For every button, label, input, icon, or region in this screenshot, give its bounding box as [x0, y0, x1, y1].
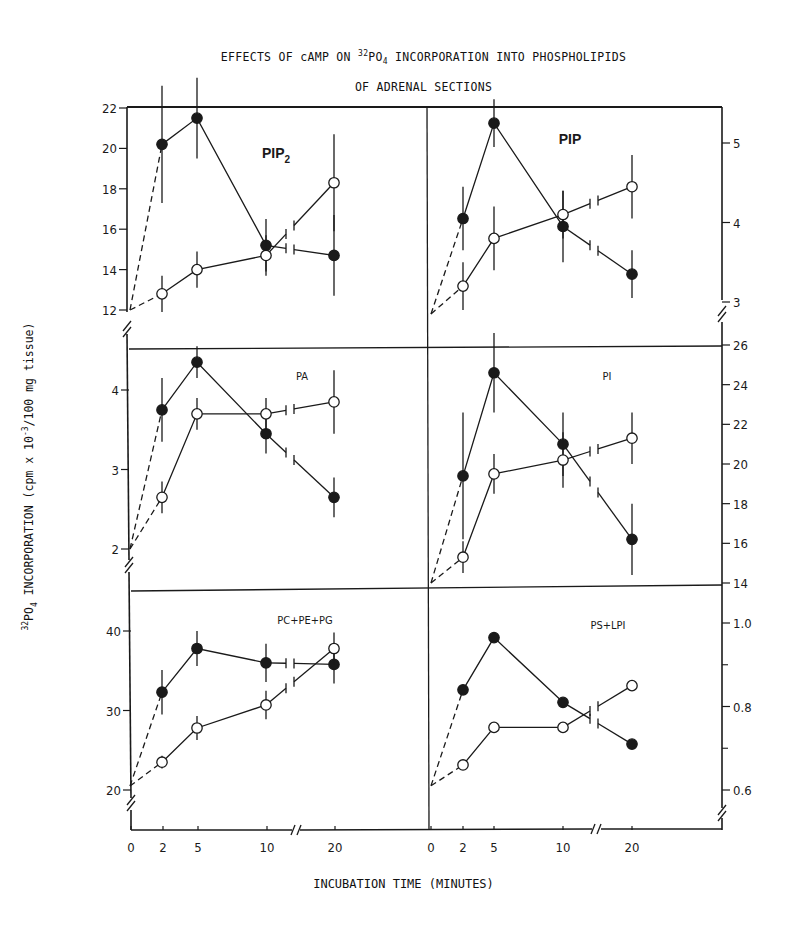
data-point-filled	[627, 269, 637, 279]
data-point-open	[489, 233, 499, 243]
svg-text:PS+LPI: PS+LPI	[591, 619, 626, 632]
svg-text:14: 14	[733, 576, 748, 591]
svg-text:3: 3	[112, 463, 119, 478]
data-point-open	[329, 397, 339, 407]
svg-text:16: 16	[733, 536, 748, 551]
svg-text:PIP: PIP	[559, 131, 582, 147]
svg-text:18: 18	[102, 182, 117, 197]
data-point-filled	[458, 685, 468, 695]
svg-text:4: 4	[733, 216, 740, 231]
svg-text:PC+PE+PG: PC+PE+PG	[277, 614, 332, 627]
data-point-filled	[489, 632, 499, 642]
data-point-open	[558, 455, 568, 465]
data-point-open	[458, 760, 468, 770]
svg-text:24: 24	[733, 378, 748, 393]
data-point-filled	[558, 697, 568, 707]
data-point-filled	[329, 250, 339, 260]
data-point-open	[627, 433, 637, 443]
svg-text:10: 10	[260, 840, 275, 855]
svg-text:PI: PI	[603, 370, 612, 383]
data-point-filled	[192, 643, 202, 653]
data-point-open	[192, 264, 202, 274]
data-point-filled	[157, 687, 167, 697]
svg-text:26: 26	[733, 338, 748, 353]
data-point-filled	[157, 405, 167, 415]
data-point-filled	[489, 368, 499, 378]
data-point-open	[157, 757, 167, 767]
panel-pi: 14161820222426PI	[431, 333, 748, 591]
svg-text:0: 0	[427, 840, 434, 855]
svg-text:1.0: 1.0	[733, 616, 752, 631]
chart-panels: 02510200251020121416182022PIP2345PIP234P…	[0, 0, 807, 935]
data-point-filled	[627, 739, 637, 749]
data-point-filled	[261, 658, 271, 668]
panel-pc-pe-pg: 203040PC+PE+PG	[106, 614, 339, 798]
data-point-filled	[261, 429, 271, 439]
svg-text:16: 16	[102, 222, 117, 237]
svg-text:20: 20	[328, 840, 343, 855]
panel-pa: 234PA	[112, 346, 340, 557]
svg-text:30: 30	[106, 704, 121, 719]
data-point-open	[329, 643, 339, 653]
panel-pip2: 121416182022PIP2	[102, 78, 339, 318]
data-point-filled	[157, 139, 167, 149]
svg-text:12: 12	[102, 303, 117, 318]
svg-text:0.6: 0.6	[733, 783, 752, 798]
svg-text:10: 10	[556, 840, 571, 855]
svg-text:20: 20	[625, 840, 640, 855]
data-point-filled	[458, 471, 468, 481]
svg-text:PIP2: PIP2	[262, 145, 291, 165]
svg-text:5: 5	[490, 840, 497, 855]
svg-text:40: 40	[106, 624, 121, 639]
svg-text:22: 22	[102, 101, 117, 116]
svg-text:20: 20	[733, 457, 748, 472]
svg-text:4: 4	[112, 383, 119, 398]
svg-text:5: 5	[733, 136, 740, 151]
svg-text:0.8: 0.8	[733, 700, 752, 715]
svg-text:20: 20	[106, 783, 121, 798]
data-point-open	[627, 182, 637, 192]
svg-text:2: 2	[112, 542, 119, 557]
svg-text:2: 2	[459, 840, 466, 855]
data-point-open	[458, 281, 468, 291]
data-point-open	[489, 722, 499, 732]
data-point-open	[261, 409, 271, 419]
svg-text:3: 3	[733, 295, 740, 310]
data-point-filled	[329, 492, 339, 502]
data-point-open	[558, 209, 568, 219]
svg-text:PA: PA	[296, 370, 308, 383]
data-point-filled	[192, 357, 202, 367]
panel-pip: 345PIP	[431, 99, 740, 314]
data-point-open	[192, 409, 202, 419]
svg-text:5: 5	[194, 840, 201, 855]
svg-text:14: 14	[102, 263, 117, 278]
data-point-open	[627, 680, 637, 690]
svg-text:2: 2	[159, 840, 166, 855]
data-point-filled	[489, 118, 499, 128]
panel-ps-lpi: 0.60.81.0PS+LPI	[431, 616, 752, 798]
svg-text:22: 22	[733, 417, 748, 432]
data-point-open	[458, 552, 468, 562]
data-point-filled	[192, 113, 202, 123]
data-point-open	[558, 722, 568, 732]
data-point-open	[261, 700, 271, 710]
data-point-open	[157, 492, 167, 502]
svg-text:0: 0	[127, 840, 134, 855]
data-point-open	[261, 250, 271, 260]
data-point-filled	[458, 213, 468, 223]
data-point-open	[192, 723, 202, 733]
data-point-open	[329, 178, 339, 188]
svg-text:18: 18	[733, 497, 748, 512]
data-point-open	[157, 289, 167, 299]
data-point-filled	[627, 534, 637, 544]
data-point-open	[489, 469, 499, 479]
svg-text:20: 20	[102, 141, 117, 156]
